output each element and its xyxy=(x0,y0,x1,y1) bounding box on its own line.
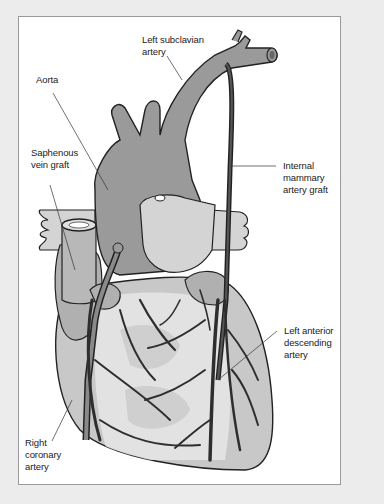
label-aorta: Aorta xyxy=(36,74,58,86)
label-saphenous-vein-graft: Saphenous vein graft xyxy=(31,147,78,171)
label-left-subclavian-artery: Left subclavian artery xyxy=(142,34,204,58)
label-left-anterior-descending-artery: Left anterior descending artery xyxy=(284,325,333,361)
label-right-coronary-artery: Right coronary artery xyxy=(25,437,61,473)
pulmonary-trunk xyxy=(140,195,215,273)
label-internal-mammary-artery-graft: Internal mammary artery graft xyxy=(283,160,328,196)
